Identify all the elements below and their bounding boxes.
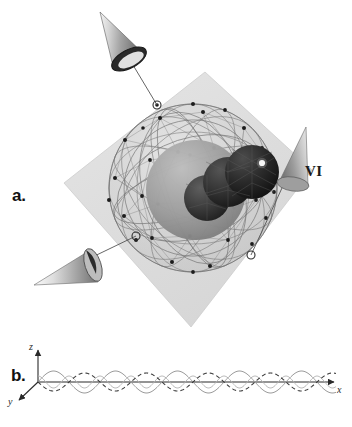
- cone-bottom-left: [34, 246, 106, 285]
- axis-label-z: z: [29, 341, 33, 352]
- figure-canvas: [0, 0, 352, 427]
- panel-label-b: b.: [11, 366, 26, 386]
- panel-a-group: [34, 12, 312, 327]
- panel-b-axes: [19, 350, 334, 400]
- axis-label-y: y: [8, 396, 12, 407]
- annotation-label-vi: VI: [305, 163, 323, 180]
- axis-label-x: x: [337, 384, 341, 395]
- panel-label-a: a.: [12, 186, 26, 206]
- cone-top-left: [100, 12, 150, 76]
- panel-b-group: [19, 350, 336, 400]
